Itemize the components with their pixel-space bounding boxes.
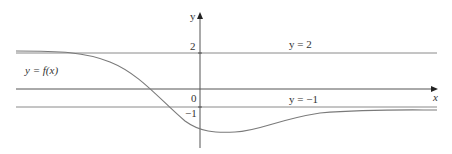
y-axis-arrow-icon [197,12,203,19]
tick-label-0: 0 [191,92,197,104]
tick-label-neg1: −1 [185,107,197,119]
asymptote-lower-label: y = −1 [289,93,318,105]
x-axis-label: x [432,91,438,103]
tick-label-2: 2 [190,40,196,52]
function-graph: y 2 0 −1 x y = 2 y = −1 y = f(x) [0,0,452,154]
asymptote-upper-label: y = 2 [289,38,312,50]
y-axis-label: y [190,10,196,22]
curve-label: y = f(x) [24,64,58,77]
function-curve [16,51,437,132]
